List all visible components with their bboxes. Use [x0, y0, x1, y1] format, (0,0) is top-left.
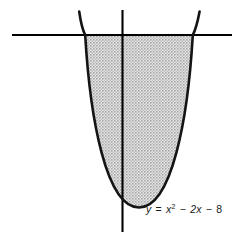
- equation-term1-exponent: 2: [172, 203, 176, 210]
- parabola-figure: y = x2 − 2x − 8: [0, 0, 240, 247]
- equation-term3: 8: [216, 203, 222, 215]
- equation-operator-1: −: [179, 203, 187, 215]
- equation-label: y = x2 − 2x − 8: [146, 203, 222, 215]
- equation-lhs: y: [146, 203, 151, 215]
- equation-operator-2: −: [205, 203, 213, 215]
- shaded-region: [85, 35, 193, 208]
- equation-equals: =: [155, 203, 163, 215]
- equation-term2: 2x: [190, 203, 202, 215]
